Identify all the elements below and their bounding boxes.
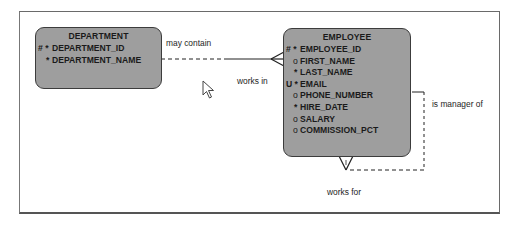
attribute-row: o COMMISSION_PCT (284, 125, 410, 137)
attribute-mark: o (293, 114, 298, 126)
self-crows-foot-icon (339, 156, 353, 170)
attribute-mark: * (294, 67, 297, 79)
attribute-row: # * DEPARTMENT_ID (36, 43, 161, 55)
label-works-in: works in (237, 76, 268, 86)
attribute-name: PHONE_NUMBER (300, 90, 373, 102)
attribute-name: EMAIL (300, 79, 327, 91)
attribute-row: o FIRST_NAME (284, 56, 410, 68)
attribute-row: * DEPARTMENT_NAME (36, 55, 161, 67)
entity-title: EMPLOYEE (284, 32, 410, 42)
attribute-name: HIRE_DATE (300, 102, 348, 114)
attribute-mark: * (46, 55, 49, 67)
attribute-row: * LAST_NAME (284, 67, 410, 79)
attribute-name: DEPARTMENT_NAME (52, 55, 141, 67)
attribute-name: FIRST_NAME (300, 56, 355, 68)
attribute-row: * HIRE_DATE (284, 102, 410, 114)
attribute-name: DEPARTMENT_ID (52, 43, 124, 55)
attribute-name: COMMISSION_PCT (300, 125, 378, 137)
entity-title: DEPARTMENT (36, 31, 161, 41)
label-is-manager-of: is manager of (432, 99, 483, 109)
attribute-row: # * EMPLOYEE_ID (284, 44, 410, 56)
attribute-row: o SALARY (284, 114, 410, 126)
attribute-mark: o (293, 56, 298, 68)
attribute-mark: U * (286, 79, 298, 91)
attribute-mark: * (294, 102, 297, 114)
entity-department[interactable]: DEPARTMENT # * DEPARTMENT_ID * DEPARTMEN… (35, 27, 162, 89)
attribute-mark: # * (38, 43, 49, 55)
attribute-mark: o (293, 125, 298, 137)
label-works-for: works for (327, 187, 361, 197)
attribute-mark: # * (286, 44, 297, 56)
attribute-name: SALARY (300, 114, 335, 126)
attribute-name: EMPLOYEE_ID (300, 44, 361, 56)
entity-employee[interactable]: EMPLOYEE # * EMPLOYEE_ID o FIRST_NAME * … (283, 28, 411, 157)
attribute-mark: o (293, 90, 298, 102)
attribute-row: U * EMAIL (284, 79, 410, 91)
attribute-row: o PHONE_NUMBER (284, 90, 410, 102)
mouse-cursor-icon (202, 80, 216, 100)
attribute-name: LAST_NAME (300, 67, 353, 79)
label-may-contain: may contain (166, 38, 211, 48)
